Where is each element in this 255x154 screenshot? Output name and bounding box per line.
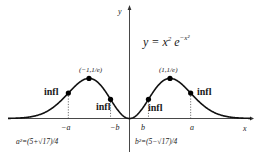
inflection-point-neg-a <box>66 90 71 95</box>
y-axis-label: y <box>117 7 122 16</box>
maximum-point-right <box>167 76 172 81</box>
inflection-label-a: infl <box>197 86 212 97</box>
maximum-point-left <box>86 76 91 81</box>
a-squared-note: a²=(5+√17)/4 <box>16 137 59 146</box>
function-plot-figure: y x y = x2 e−x² (−1,1/e) (1,1/e) infl in… <box>0 0 255 154</box>
inflection-label-neg-b: infl <box>96 101 111 112</box>
tick-label-neg-a: −a <box>61 123 70 132</box>
inflection-point-a <box>188 90 193 95</box>
inflection-label-neg-a: infl <box>44 86 59 97</box>
x-axis-label: x <box>242 124 247 133</box>
y-axis-arrow-icon <box>128 5 132 10</box>
tick-label-neg-b: −b <box>110 123 119 132</box>
tick-label-a: a <box>190 123 194 132</box>
inflection-label-b: infl <box>148 102 163 113</box>
maximum-label-left: (−1,1/e) <box>79 66 103 74</box>
tick-label-b: b <box>141 123 145 132</box>
maximum-label-right: (1,1/e) <box>159 66 178 74</box>
plot-canvas: y x y = x2 e−x² (−1,1/e) (1,1/e) infl in… <box>0 0 255 154</box>
equation-label: y = x2 e−x² <box>142 34 190 49</box>
b-squared-note: b²=(5−√17)/4 <box>135 137 178 146</box>
